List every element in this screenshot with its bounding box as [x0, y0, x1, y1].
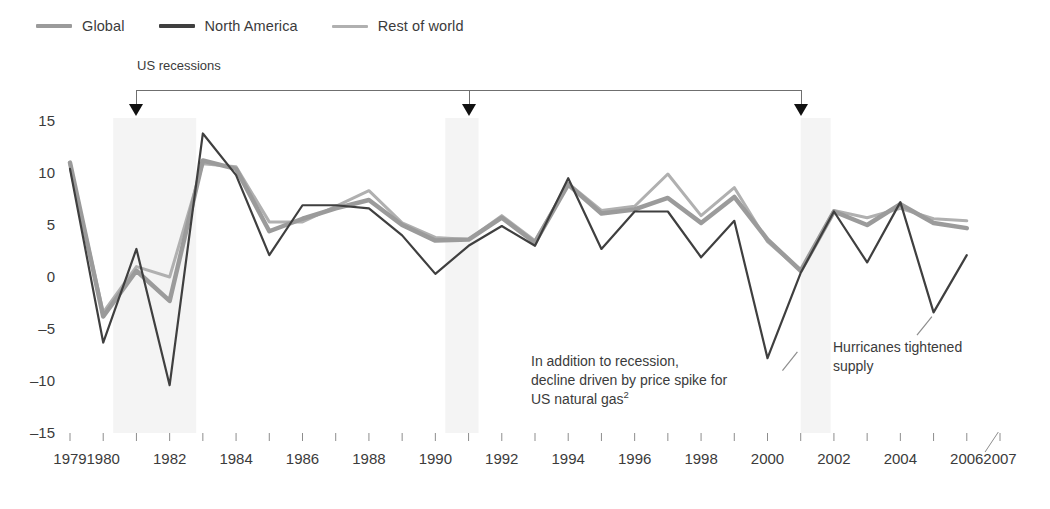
chart-root: GlobalNorth AmericaRest of world US rece…	[0, 0, 1050, 509]
y-axis-tick-label: 0	[15, 268, 55, 285]
x-axis-tick-label: 2000	[738, 450, 798, 467]
x-axis-tick-label: 1986	[273, 450, 333, 467]
x-axis-tick-label: 1996	[605, 450, 665, 467]
gas-price-annotation: In addition to recession, decline driven…	[531, 352, 727, 409]
x-axis-tick-label: 1990	[405, 450, 465, 467]
x-axis-tick-label: 1992	[472, 450, 532, 467]
series-line-global	[70, 161, 967, 317]
chart-svg	[0, 0, 1050, 509]
recession-band-2	[801, 118, 831, 433]
hurricanes-annotation-line-2: supply	[833, 357, 962, 376]
hurricanes-annotation-line-1: Hurricanes tightened	[833, 338, 962, 357]
x-axis-tick-label: 1994	[538, 450, 598, 467]
series-line-rest-of-world	[70, 164, 967, 313]
gas-price-annotation-line-2: decline driven by price spike for	[531, 371, 727, 390]
x-axis-tick-label: 2002	[804, 450, 864, 467]
axis-break-slash	[985, 432, 998, 452]
y-axis-tick-label: –10	[15, 372, 55, 389]
y-axis-tick-label: –5	[15, 320, 55, 337]
x-axis-tick-label: 1998	[671, 450, 731, 467]
gas-price-annotation-line-3-text: US natural gas	[531, 391, 624, 407]
plot-area	[0, 0, 1050, 509]
footnote-marker: 2	[624, 389, 629, 400]
x-axis-tick-label: 2007	[970, 450, 1030, 467]
hurricanes-annotation: Hurricanes tightened supply	[833, 338, 962, 376]
leader-line-hurricanes	[917, 317, 932, 336]
leader-line-gas-price	[782, 352, 797, 371]
x-axis-tick-label: 1988	[339, 450, 399, 467]
x-axis-tick-label: 1984	[206, 450, 266, 467]
y-axis-tick-label: 15	[15, 112, 55, 129]
x-axis-ticks	[70, 432, 1000, 452]
y-axis-tick-label: 10	[15, 164, 55, 181]
x-axis-tick-label: 2004	[870, 450, 930, 467]
x-axis-tick-label: 1982	[140, 450, 200, 467]
recession-band-1	[445, 118, 478, 433]
gas-price-annotation-line-1: In addition to recession,	[531, 352, 727, 371]
y-axis-tick-label: –15	[15, 424, 55, 441]
gas-price-annotation-line-3: US natural gas2	[531, 390, 727, 409]
x-axis-tick-label: 1980	[73, 450, 133, 467]
y-axis-tick-label: 5	[15, 216, 55, 233]
